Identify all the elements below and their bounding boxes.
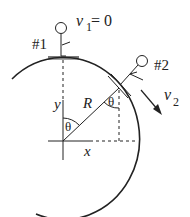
v2-subscript: 2 xyxy=(173,95,179,109)
diagram-canvas: #1 #2 v 1 = 0 v 2 R θ θ y x xyxy=(0,0,190,217)
skier2-body xyxy=(120,65,138,85)
y-label: y xyxy=(52,96,61,112)
theta-skier2-label: θ xyxy=(108,94,114,109)
radius-label: R xyxy=(82,95,92,111)
skier2-label: #2 xyxy=(154,57,169,73)
v2-symbol: v xyxy=(164,86,172,103)
skier1-head xyxy=(56,23,67,34)
skier1-figure xyxy=(48,23,79,60)
skier2-head xyxy=(137,56,148,67)
skier1-label: #1 xyxy=(32,36,47,52)
skier2-arm xyxy=(130,74,143,80)
x-label: x xyxy=(83,143,91,159)
v1-equals-zero: = 0 xyxy=(91,12,112,29)
v1-symbol: v xyxy=(76,12,84,29)
skier1-arm xyxy=(62,42,70,45)
theta-center-label: θ xyxy=(65,119,71,134)
skier2-figure xyxy=(108,56,148,99)
circular-hill-arc xyxy=(12,58,140,217)
